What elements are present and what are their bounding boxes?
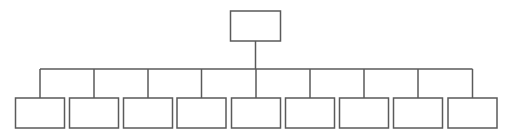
child-node-box-7 [340,98,389,128]
child-node-box-6 [286,98,335,128]
child-node-box-9 [448,98,497,128]
child-node-box-8 [394,98,443,128]
child-node-box-3 [124,98,173,128]
child-node-box-1 [16,98,65,128]
org-chart-diagram [0,0,509,137]
root-node-box [231,11,281,41]
child-node-box-2 [70,98,119,128]
child-node-box-5 [232,98,281,128]
child-node-box-4 [177,98,226,128]
